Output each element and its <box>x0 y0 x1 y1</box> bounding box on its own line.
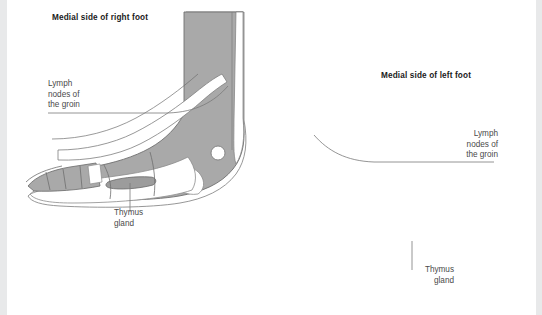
foot-illustrations <box>0 0 542 315</box>
thymus-label-line-1: Thymus <box>425 265 454 276</box>
right-foot-thymus-label: Thymus gland <box>114 208 143 229</box>
lymph-label-line-2: nodes of <box>48 90 80 101</box>
lymph-label-line-1: Lymph <box>466 129 498 140</box>
left-foot-lymph-label: Lymph nodes of the groin <box>466 129 498 161</box>
right-foot-lymph-label: Lymph nodes of the groin <box>48 79 80 111</box>
left-foot-caption: Medial side of left foot <box>381 71 471 80</box>
lymph-label-line-2: nodes of <box>466 140 498 151</box>
thymus-label-line-2: gland <box>425 276 454 287</box>
thymus-label-line-1: Thymus <box>114 208 143 219</box>
thymus-label-line-2: gland <box>114 219 143 230</box>
lymph-label-line-3: the groin <box>466 150 498 161</box>
right-foot-caption: Medial side of right foot <box>52 13 148 22</box>
lymph-label-line-3: the groin <box>48 100 80 111</box>
diagram-canvas: Medial side of right foot Lymph nodes of… <box>0 0 542 315</box>
left-foot-thymus-label: Thymus gland <box>425 265 454 286</box>
lymph-label-line-1: Lymph <box>48 79 80 90</box>
